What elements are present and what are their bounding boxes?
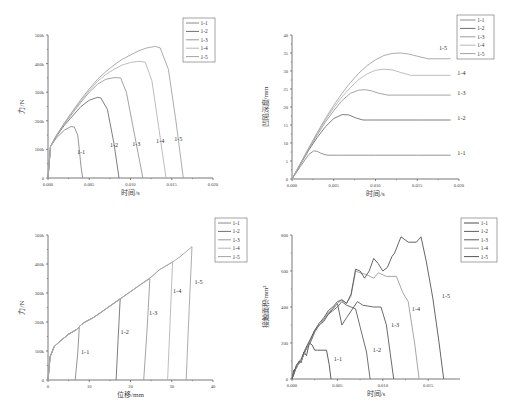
y-tick-label: 200 [281, 341, 289, 346]
legend-label: 1-5 [481, 254, 488, 260]
series-1-2 [292, 302, 370, 379]
y-axis-label: 接触面积/mm² [261, 286, 270, 329]
legend: 1-11-21-31-41-5 [461, 218, 497, 262]
legend-label: 1-4 [481, 245, 488, 251]
y-tick-label: 400 [281, 305, 289, 310]
series-annotation: 1-2 [373, 346, 381, 353]
series-annotation: 1-4 [412, 305, 420, 312]
series-annotation: 1-3 [391, 321, 399, 328]
series-1-5 [292, 237, 444, 379]
y-tick-label: 0 [286, 377, 289, 382]
legend-label: 1-2 [481, 228, 488, 234]
x-tick-label: 0.000 [287, 383, 298, 388]
x-tick-label: 0.015 [423, 383, 434, 388]
series-1-1 [292, 343, 331, 379]
area-time-plot: 02004006008000.0000.0050.0100.015时间/s接触面… [261, 233, 460, 398]
figure: 0100k200k300k400k500k0.0000.0050.0100.01… [0, 0, 506, 418]
legend-label: 1-3 [481, 237, 488, 243]
legend-label: 1-1 [481, 220, 488, 226]
series-1-4 [292, 271, 419, 379]
x-tick-label: 0.005 [332, 383, 343, 388]
series-annotation: 1-5 [442, 292, 450, 299]
x-tick-label: 0.010 [378, 383, 389, 388]
y-tick-label: 600 [281, 269, 289, 274]
series-1-3 [292, 302, 394, 379]
series-annotation: 1-1 [334, 355, 342, 362]
x-axis-label: 时间/s [367, 389, 386, 398]
y-tick-label: 800 [281, 233, 289, 238]
area-time-chart: 02004006008000.0000.0050.0100.015时间/s接触面… [0, 0, 506, 418]
